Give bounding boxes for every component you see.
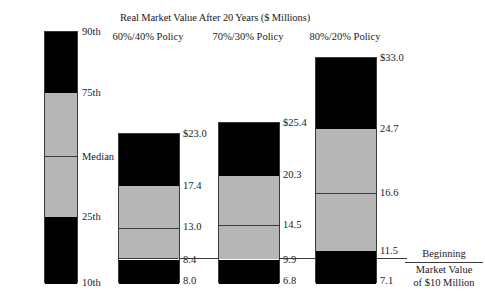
reference-note-underline [405, 262, 483, 263]
bar2-label-p90: $25.4 [283, 117, 307, 128]
bar2-segment-p75-p25 [219, 176, 279, 259]
bar2-segment-p90-p75 [219, 123, 279, 176]
chart-title: Real Market Value After 20 Years ($ Mill… [0, 12, 430, 23]
bar2-median-line [219, 225, 279, 226]
bar2-label-p25: 9.9 [283, 254, 296, 265]
bar2-label-p75: 20.3 [283, 169, 301, 180]
bar1-median-line [119, 228, 179, 229]
bar2-segment-p25-p10 [219, 260, 279, 284]
bar2-label-p10: 6.8 [283, 275, 296, 286]
bar3-median-line [316, 193, 376, 194]
bar3-segment-p75-p25 [316, 129, 376, 251]
bar3-label-median: 16.6 [380, 187, 398, 198]
bar3-label-p25: 11.5 [380, 245, 398, 256]
bar1-label-p10: 8.0 [183, 275, 196, 286]
bar3-segment-p25-p10 [316, 251, 376, 284]
bar-policy-60-40 [118, 133, 180, 283]
bar1-segment-p25-p10 [119, 260, 179, 284]
bar1-label-p25: 8.4 [183, 254, 196, 265]
bar1-segment-p75-p25 [119, 186, 179, 259]
reference-line-segment-1 [118, 258, 178, 259]
reference-line-segment-4 [377, 258, 407, 259]
bar1-segment-p90-p75 [119, 134, 179, 186]
legend-tick-90th: 90th [82, 26, 101, 37]
chart-canvas: Real Market Value After 20 Years ($ Mill… [0, 0, 485, 304]
bar1-label-p90: $23.0 [183, 128, 207, 139]
legend-tick-25th: 25th [82, 211, 101, 222]
bar1-label-p75: 17.4 [183, 180, 201, 191]
bar2-label-median: 14.5 [283, 219, 301, 230]
reference-note-line-2: Market Value [405, 264, 483, 277]
column-header-policy-3: 80%/20% Policy [295, 31, 395, 42]
reference-note-line-3: of $10 Million [405, 277, 483, 290]
bar3-label-p10: 7.1 [380, 275, 393, 286]
column-header-policy-2: 70%/30% Policy [198, 31, 298, 42]
bar1-label-median: 13.0 [183, 221, 201, 232]
column-header-policy-1: 60%/40% Policy [98, 31, 198, 42]
legend-segment-90-75 [45, 32, 77, 93]
legend-tick-75th: 75th [82, 87, 101, 98]
reference-note-line-1: Beginning [405, 248, 483, 261]
legend-key-bar [44, 31, 78, 283]
bar3-label-p75: 24.7 [380, 123, 398, 134]
reference-line-segment-2 [180, 258, 218, 259]
legend-segment-25-10 [45, 217, 77, 284]
bar-policy-80-20 [315, 57, 377, 283]
legend-segment-75-25 [45, 93, 77, 217]
bar3-label-p90: $33.0 [380, 52, 404, 63]
bar-policy-70-30 [218, 122, 280, 283]
bar3-segment-p90-p75 [316, 58, 376, 129]
reference-line-segment-3 [280, 258, 315, 259]
legend-tick-median: Median [82, 151, 114, 162]
legend-median-line [45, 156, 77, 157]
legend-tick-10th: 10th [82, 277, 101, 288]
